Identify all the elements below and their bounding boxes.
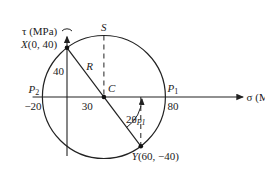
center-offset-label: 30 <box>82 100 94 112</box>
mohr-circle-diagram: σ (MPa) τ (MPa) X(0, 40) Y(60, −40) C S … <box>0 0 265 181</box>
p2-label: P2 <box>27 83 39 97</box>
point-c <box>102 95 107 100</box>
p1-label: P1 <box>166 82 178 96</box>
angle-label: 2θP1 <box>126 113 146 127</box>
rotation-arrow-icon <box>62 29 72 31</box>
point-y-label: Y(60, −40) <box>132 150 179 163</box>
tau-axis-label: τ (MPa) <box>22 25 58 38</box>
point-y <box>139 144 144 149</box>
point-s-label: S <box>101 21 107 33</box>
p1-value-label: 80 <box>167 100 179 112</box>
radius-label: R <box>85 60 93 72</box>
tau-x-dimension-label: 40 <box>53 65 65 77</box>
sigma-axis-label: σ (MPa) <box>247 91 265 104</box>
point-x-label: X(0, 40) <box>20 38 57 51</box>
point-x <box>65 46 70 51</box>
p2-value-label: −20 <box>24 100 42 112</box>
center-label: C <box>108 82 116 94</box>
